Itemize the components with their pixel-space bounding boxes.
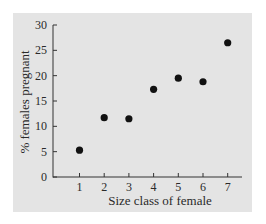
x-tick-label: 6 [200, 180, 206, 194]
data-point [199, 78, 206, 85]
scatter-chart: 051015202530 1234567 Size class of femal… [0, 0, 266, 224]
y-tick-label: 0 [41, 170, 47, 184]
y-tick-label: 15 [35, 94, 47, 108]
axes [53, 25, 242, 178]
x-tick-label: 4 [151, 180, 157, 194]
y-tick-label: 5 [41, 145, 47, 159]
data-points [76, 39, 231, 154]
x-ticks: 1234567 [77, 173, 231, 194]
x-tick-label: 3 [126, 180, 132, 194]
data-point [175, 75, 182, 82]
data-point [101, 114, 108, 121]
x-tick-label: 5 [175, 180, 181, 194]
x-tick-label: 1 [77, 180, 83, 194]
x-tick-label: 7 [225, 180, 231, 194]
data-point [125, 115, 132, 122]
y-tick-label: 10 [35, 119, 47, 133]
data-point [224, 39, 231, 46]
y-tick-label: 20 [35, 69, 47, 83]
y-ticks: 051015202530 [35, 18, 57, 184]
data-point [76, 147, 83, 154]
data-point [150, 86, 157, 93]
x-axis-title: Size class of female [108, 193, 212, 208]
x-tick-label: 2 [101, 180, 107, 194]
y-axis-title: % females pregnant [17, 50, 32, 154]
y-tick-label: 30 [35, 18, 47, 32]
y-tick-label: 25 [35, 43, 47, 57]
